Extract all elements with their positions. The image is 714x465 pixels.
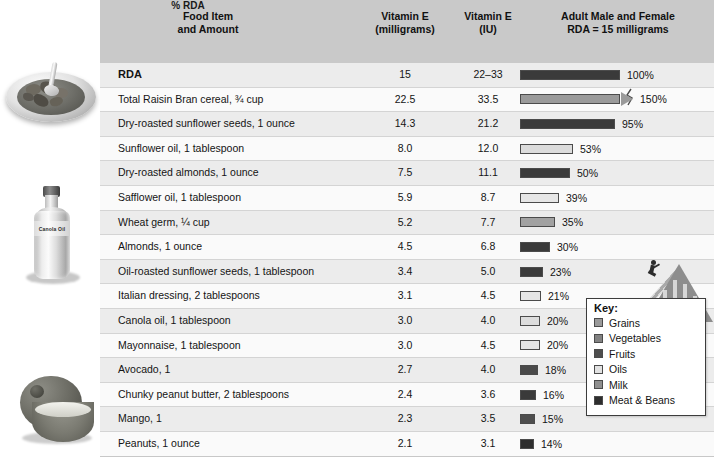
percent-rda-bar [520,390,536,400]
cell-milligrams: 3.4 [362,260,448,284]
cell-food-item: Total Raisin Bran cereal, ¾ cup [118,88,263,112]
cell-iu: 3.1 [452,432,524,456]
cell-percent-rda-bar: 16% [520,383,564,407]
cell-milligrams: 2.1 [362,432,448,456]
legend-item: Meat & Beans [594,393,700,409]
cell-iu: 5.0 [452,260,524,284]
table-row: Sunflower oil, 1 tablespoon8.012.053% [100,137,714,162]
legend-label: Vegetables [609,332,661,344]
avocado-illustration [18,372,102,448]
legend-item: Milk [594,377,700,393]
percent-rda-bar [520,217,555,227]
legend-items: GrainsVegetablesFruitsOilsMilkMeat & Bea… [594,315,700,408]
avocado-flesh [35,402,91,417]
legend-box: Key: GrainsVegetablesFruitsOilsMilkMeat … [586,298,706,416]
percent-rda-label: 35% [562,216,583,228]
column-header-iu: Vitamin E (IU) [452,10,524,35]
legend-swatch [594,334,603,343]
cell-percent-rda-bar: 21% [520,284,569,308]
cell-milligrams: 2.7 [362,358,448,382]
percent-rda-label: 23% [550,266,571,278]
cell-percent-rda-bar: 35% [520,211,583,235]
cell-milligrams: 22.5 [362,88,448,112]
cell-food-item: Safflower oil, 1 tablespoon [118,186,241,210]
table-row: Total Raisin Bran cereal, ¾ cup22.533.51… [100,88,714,113]
table-row: Almonds, 1 ounce4.56.830% [100,235,714,260]
percent-rda-label: 100% [627,69,654,81]
legend-swatch [594,396,603,405]
cell-iu: 33.5 [452,88,524,112]
cell-milligrams: 4.5 [362,235,448,259]
cell-food-item: Mango, 1 [118,407,162,431]
percent-rda-bar [520,365,538,375]
cell-milligrams: 15 [362,63,448,87]
legend-label: Milk [609,379,628,391]
cell-food-item: Italian dressing, 2 tablespoons [118,284,260,308]
cell-food-item: Almonds, 1 ounce [118,235,202,259]
cell-food-item: RDA [118,63,142,87]
table-row: Dry-roasted sunflower seeds, 1 ounce14.3… [100,112,714,137]
cell-iu: 3.6 [452,383,524,407]
cell-percent-rda-bar: 50% [520,161,598,185]
cell-iu: 4.0 [452,309,524,333]
percent-rda-bar [520,414,535,424]
cell-iu: 4.5 [452,284,524,308]
cell-food-item: Dry-roasted almonds, 1 ounce [118,161,259,185]
percent-rda-bar [520,144,573,154]
avocado-pit [30,385,44,398]
percent-rda-label: 18% [545,364,566,376]
cell-food-item: Dry-roasted sunflower seeds, 1 ounce [118,112,295,136]
legend-item: Grains [594,315,700,331]
cell-food-item: Peanuts, 1 ounce [118,432,200,456]
cell-percent-rda-bar: 100% [520,63,654,87]
cell-iu: 7.7 [452,211,524,235]
percent-rda-label: 95% [622,118,643,130]
cell-food-item: Mayonnaise, 1 tablespoon [118,334,241,358]
cell-milligrams: 14.3 [362,112,448,136]
cell-percent-rda-bar: 15% [520,407,563,431]
cell-iu: 21.2 [452,112,524,136]
cell-percent-rda-bar: 20% [520,334,568,358]
table-row: Dry-roasted almonds, 1 ounce7.511.150% [100,161,714,186]
legend-swatch [594,349,603,358]
cell-iu: 12.0 [452,137,524,161]
cell-milligrams: 7.5 [362,161,448,185]
cell-percent-rda-bar: 30% [520,235,578,259]
column-header-rda: Adult Male and Female RDA = 15 milligram… [530,10,706,35]
percent-rda-label: 20% [547,315,568,327]
table-row: Safflower oil, 1 tablespoon5.98.739% [100,186,714,211]
cell-milligrams: 2.3 [362,407,448,431]
legend-item: Vegetables [594,331,700,347]
cell-food-item: Sunflower oil, 1 tablespoon [118,137,244,161]
bottle-label: Canola Oil [34,221,70,236]
legend-label: Grains [609,317,640,329]
cell-percent-rda-bar: 53% [520,137,601,161]
percent-rda-label: 21% [548,290,569,302]
percent-rda-bar [520,439,534,449]
cell-percent-rda-bar: 14% [520,432,562,456]
percent-rda-label: 15% [542,413,563,425]
cell-milligrams: 5.2 [362,211,448,235]
cell-iu: 4.0 [452,358,524,382]
cell-milligrams: 5.9 [362,186,448,210]
percent-rda-label: 20% [547,339,568,351]
table-row: Peanuts, 1 ounce2.13.114% [100,432,714,457]
percent-rda-bar [520,267,543,277]
cell-iu: 11.1 [452,161,524,185]
cell-iu: 8.7 [452,186,524,210]
percent-rda-label: 50% [577,167,598,179]
cell-iu: 6.8 [452,235,524,259]
illustration-margin: Canola Oil [0,0,100,465]
legend-label: Oils [609,363,627,375]
column-header-milligrams: Vitamin E (milligrams) [362,10,448,35]
cereal-bowl-illustration [6,62,96,124]
percent-rda-bar [520,168,570,178]
percent-rda-bar [520,316,540,326]
percent-rda-bar [520,119,615,129]
percent-rda-label: 39% [566,192,587,204]
percent-rda-bar [520,242,550,252]
legend-swatch [594,318,603,327]
cell-milligrams: 3.0 [362,309,448,333]
percent-rda-label: 14% [541,438,562,450]
table-row: RDA1522–33100% [100,63,714,88]
